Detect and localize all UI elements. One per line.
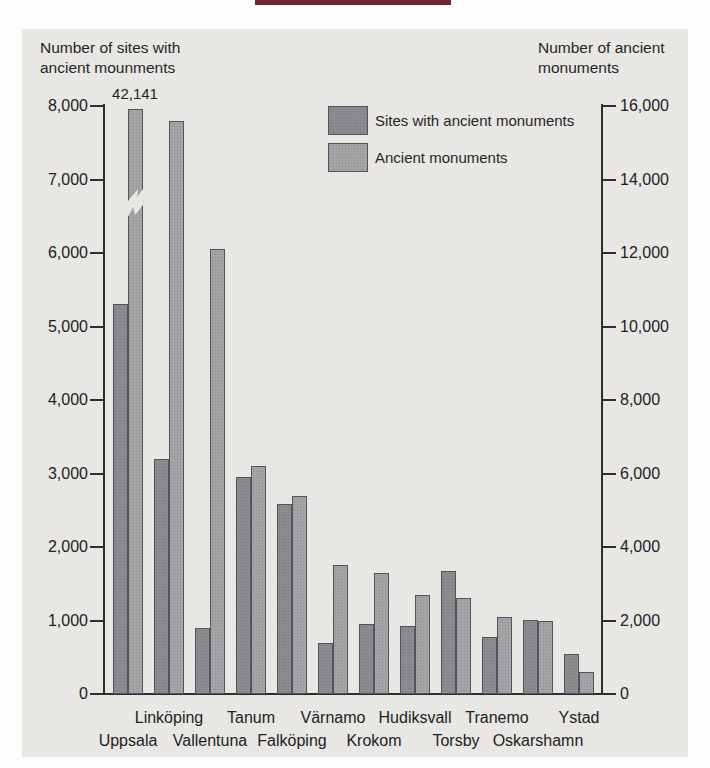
- plot-area: 01,0002,0003,0004,0005,0006,0007,0008,00…: [0, 0, 710, 768]
- left-axis-tick: [90, 179, 103, 181]
- right-axis-tick: [603, 620, 616, 622]
- x-label-Oskarshamn: Oskarshamn: [480, 732, 596, 750]
- right-axis-tick: [603, 105, 616, 107]
- left-axis-tick: [90, 105, 103, 107]
- bar-sites-Hudiksvall: [400, 626, 415, 694]
- left-axis-tick: [90, 546, 103, 548]
- right-axis-tick: [603, 326, 616, 328]
- right-axis-tick-label: 10,000: [620, 318, 692, 336]
- bar-sites-Vallentuna: [195, 628, 210, 694]
- bar-sites-Ystad: [564, 654, 579, 694]
- left-axis-tick: [90, 693, 103, 695]
- bar-monuments-Hudiksvall: [415, 595, 430, 694]
- bar-sites-Krokom: [359, 624, 374, 694]
- x-label-Ystad: Ystad: [521, 709, 637, 727]
- left-axis-tick: [90, 399, 103, 401]
- bar-monuments-Linköping: [169, 121, 184, 694]
- right-axis-tick-label: 14,000: [620, 171, 692, 189]
- left-axis-tick: [90, 252, 103, 254]
- left-axis-tick-label: 6,000: [28, 244, 88, 262]
- bar-monuments-Vallentuna: [210, 249, 225, 694]
- right-axis-tick: [603, 546, 616, 548]
- left-axis-tick-label: 4,000: [28, 391, 88, 409]
- bar-monuments-Uppsala-upper: [128, 109, 143, 201]
- bar-sites-Linköping: [154, 459, 169, 694]
- left-axis-tick-label: 7,000: [28, 171, 88, 189]
- right-axis-tick-label: 12,000: [620, 244, 692, 262]
- bar-sites-Falköping: [277, 504, 292, 694]
- bar-monuments-Torsby: [456, 598, 471, 694]
- bar-monuments-Falköping: [292, 496, 307, 694]
- left-axis-tick-label: 0: [28, 685, 88, 703]
- right-axis-tick: [603, 399, 616, 401]
- right-axis-tick-label: 0: [620, 685, 692, 703]
- bar-monuments-Krokom: [374, 573, 389, 694]
- left-axis-tick-label: 8,000: [28, 97, 88, 115]
- left-axis-tick-label: 5,000: [28, 318, 88, 336]
- bar-sites-Tanum: [236, 477, 251, 694]
- right-axis-tick-label: 8,000: [620, 391, 692, 409]
- right-axis-tick: [603, 252, 616, 254]
- bar-monuments-Tanum: [251, 466, 266, 694]
- bar-monuments-Tranemo: [497, 617, 512, 694]
- bar-sites-Oskarshamn: [523, 620, 538, 694]
- left-axis-tick: [90, 620, 103, 622]
- right-axis-tick-label: 6,000: [620, 465, 692, 483]
- bar-sites-Tranemo: [482, 637, 497, 694]
- bar-monuments-Uppsala-lower: [128, 203, 143, 694]
- left-axis-tick-label: 3,000: [28, 465, 88, 483]
- bar-sites-Torsby: [441, 571, 456, 694]
- right-axis-tick-label: 4,000: [620, 538, 692, 556]
- right-axis-tick-label: 2,000: [620, 612, 692, 630]
- bar-sites-Värnamo: [318, 643, 333, 694]
- left-axis-tick: [90, 326, 103, 328]
- right-axis-tick: [603, 179, 616, 181]
- bar-monuments-Oskarshamn: [538, 621, 553, 695]
- bar-monuments-Värnamo: [333, 565, 348, 694]
- figure: Number of sites with ancient mounments N…: [0, 0, 710, 768]
- left-axis-tick-label: 2,000: [28, 538, 88, 556]
- right-axis-tick-label: 16,000: [620, 97, 692, 115]
- broken-bar-annotation: 42,141: [100, 86, 170, 102]
- left-axis-tick: [90, 473, 103, 475]
- bar-monuments-Ystad: [579, 672, 594, 694]
- left-axis-tick-label: 1,000: [28, 612, 88, 630]
- right-axis-tick: [603, 693, 616, 695]
- left-axis-line: [103, 104, 105, 695]
- bar-sites-Uppsala: [113, 304, 128, 694]
- right-axis-tick: [603, 473, 616, 475]
